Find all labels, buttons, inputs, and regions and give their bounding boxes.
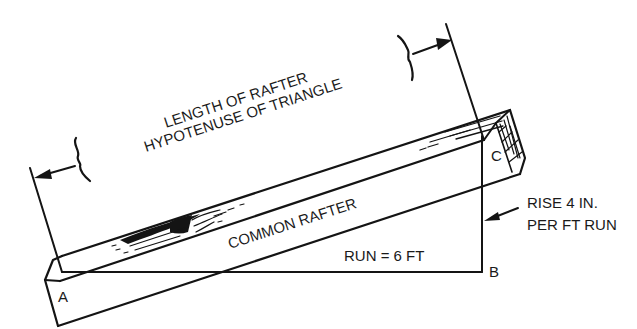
rise-pointer: [484, 208, 518, 221]
rafter-bottom-edge: [58, 174, 520, 326]
break-brace-right-icon: [398, 36, 413, 80]
wood-grain-knot: [112, 204, 244, 253]
run-label: RUN = 6 FT: [344, 247, 424, 264]
rafter-left-edge-corner: [45, 280, 60, 281]
rise-label-line2: PER FT RUN: [527, 216, 617, 233]
break-brace-left-icon: [75, 138, 90, 181]
point-c-label: C: [491, 147, 502, 164]
rafter-diagram: LENGTH OF RAFTER HYPOTENUSE OF TRIANGLE …: [0, 0, 637, 329]
arrow-left-icon: [34, 169, 52, 179]
point-a-label: A: [58, 288, 68, 305]
rafter-right-end-outer: [510, 110, 525, 174]
rafter-top-far-edge: [62, 110, 510, 256]
arrow-right-icon: [436, 38, 452, 50]
rise-label-line1: RISE 4 IN.: [527, 194, 598, 211]
point-b-label: B: [489, 263, 499, 280]
rise-arrow-icon: [484, 212, 500, 221]
extension-line-left: [30, 168, 62, 272]
extension-line-right: [446, 24, 484, 140]
wood-grain-right: [420, 116, 503, 150]
